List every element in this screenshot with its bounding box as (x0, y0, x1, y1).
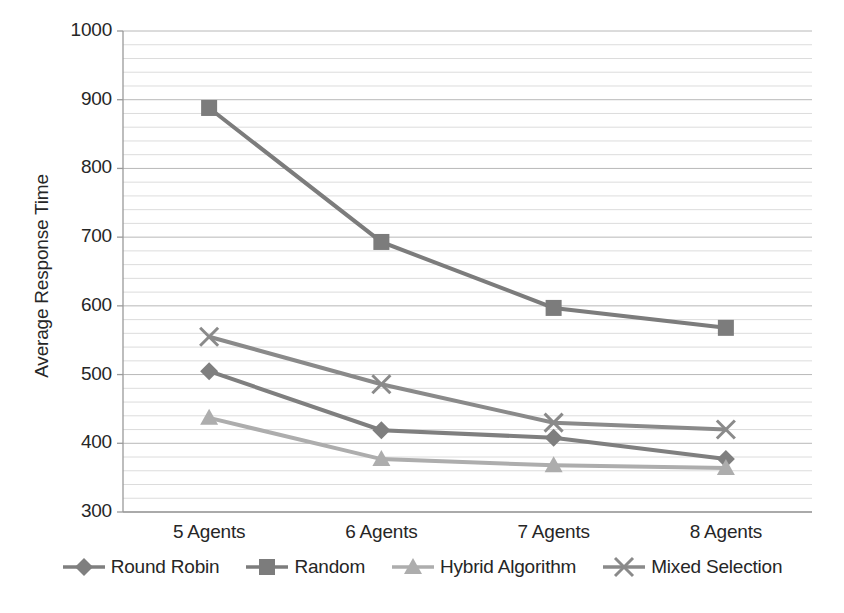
legend-entry[interactable]: Random (245, 556, 365, 578)
chart-figure: 3004005006007008009001000 5 Agents6 Agen… (0, 0, 844, 613)
legend-diamond-marker-icon (62, 556, 106, 578)
x-category-label: 6 Agents (311, 521, 451, 543)
series-lines-and-markers (200, 100, 735, 475)
legend-square-marker-icon (245, 556, 289, 578)
legend-entry-label: Hybrid Algorithm (440, 556, 576, 578)
series-hybrid-algorithm (200, 409, 735, 475)
legend-triangle-marker-icon (391, 556, 435, 578)
y-tick-label: 900 (40, 88, 112, 110)
legend-entry-label: Random (294, 556, 365, 578)
major-gridlines (123, 31, 812, 512)
series-round-robin (200, 362, 735, 468)
series-random (201, 100, 734, 336)
series-mixed-selection (200, 328, 735, 439)
chart-legend: Round RobinRandomHybrid AlgorithmMixed S… (0, 556, 844, 578)
x-category-label: 7 Agents (484, 521, 624, 543)
legend-entry[interactable]: Mixed Selection (602, 556, 782, 578)
axis-lines (117, 31, 812, 512)
y-tick-label: 1000 (40, 19, 112, 41)
legend-entry[interactable]: Hybrid Algorithm (391, 556, 576, 578)
y-axis-title: Average Response Time (31, 146, 53, 406)
legend-entry[interactable]: Round Robin (62, 556, 220, 578)
x-category-label: 5 Agents (139, 521, 279, 543)
y-tick-label: 300 (40, 500, 112, 522)
legend-entry-label: Round Robin (111, 556, 220, 578)
legend-x-marker-icon (602, 556, 646, 578)
legend-entry-label: Mixed Selection (651, 556, 782, 578)
y-tick-label: 400 (40, 431, 112, 453)
x-category-label: 8 Agents (656, 521, 796, 543)
